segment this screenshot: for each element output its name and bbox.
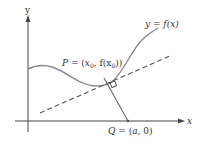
x-axis-arrow-icon (178, 119, 185, 124)
normal-line-diagram: y x y = f(x) P = (x0, f(x0)) Q = (a, 0) (0, 0, 198, 145)
y-axis (26, 15, 31, 132)
point-q-dot (127, 120, 130, 123)
point-q-label: Q = (a, 0) (108, 126, 153, 136)
y-axis-label: y (24, 5, 31, 15)
x-axis (15, 119, 185, 124)
point-p-label: P = (x0, f(x0)) (61, 58, 122, 69)
x-axis-label: x (187, 116, 192, 126)
y-axis-arrow-icon (26, 15, 31, 22)
curve-label: y = f(x) (144, 19, 179, 29)
function-curve (28, 28, 158, 86)
